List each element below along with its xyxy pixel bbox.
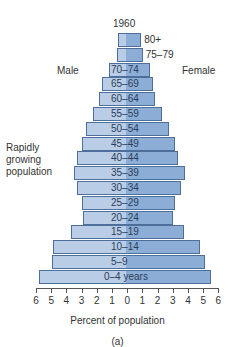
age-group-label: 5–9: [111, 256, 128, 267]
x-tick-label: 1: [137, 295, 147, 306]
age-group-label: 0–4 years: [104, 271, 148, 282]
x-tick-label: 4: [61, 295, 71, 306]
age-group-label: 40–44: [111, 152, 139, 163]
male-segment: [118, 49, 126, 61]
x-tick: [158, 288, 159, 293]
x-tick: [112, 288, 113, 293]
x-tick: [51, 288, 52, 293]
pyramid-bar: [117, 48, 143, 62]
age-group-label: 50–54: [111, 123, 139, 134]
female-label: Female: [182, 65, 215, 76]
age-group-label: 75–79: [146, 49, 174, 60]
age-group-label: 10–14: [111, 241, 139, 252]
age-group-label: 45–49: [111, 138, 139, 149]
x-tick-label: 4: [183, 295, 193, 306]
pyramid-bar: [52, 255, 206, 269]
x-tick-label: 6: [213, 295, 223, 306]
male-segment: [119, 34, 126, 46]
pyramid-bar: [118, 33, 141, 47]
x-tick: [173, 288, 174, 293]
x-tick: [82, 288, 83, 293]
age-group-label: 30–34: [111, 182, 139, 193]
age-group-label: 15–19: [111, 226, 139, 237]
female-segment: [126, 49, 141, 61]
age-group-label: 80+: [144, 34, 161, 45]
age-group-label: 35–39: [111, 167, 139, 178]
chart-title-year: 1960: [113, 18, 135, 29]
desc-line-2: growing: [6, 154, 52, 166]
desc-line-1: Rapidly: [6, 142, 52, 154]
x-tick-label: 3: [168, 295, 178, 306]
x-tick: [142, 288, 143, 293]
x-tick: [127, 288, 128, 293]
age-group-label: 70–74: [111, 64, 139, 75]
female-segment: [126, 34, 140, 46]
age-group-label: 65–69: [111, 78, 139, 89]
x-tick-label: 2: [153, 295, 163, 306]
age-group-label: 55–59: [111, 108, 139, 119]
population-description: Rapidly growing population: [6, 142, 52, 178]
x-tick: [203, 288, 204, 293]
x-tick-label: 5: [46, 295, 56, 306]
x-tick-label: 2: [92, 295, 102, 306]
x-tick: [66, 288, 67, 293]
x-tick: [97, 288, 98, 293]
desc-line-3: population: [6, 166, 52, 178]
x-tick-label: 6: [31, 295, 41, 306]
female-segment: [126, 256, 204, 268]
age-group-label: 25–29: [111, 197, 139, 208]
x-tick: [218, 288, 219, 293]
x-tick: [188, 288, 189, 293]
x-tick-label: 5: [198, 295, 208, 306]
x-axis-label: Percent of population: [0, 315, 235, 326]
age-group-label: 20–24: [111, 212, 139, 223]
x-tick: [36, 288, 37, 293]
x-tick-label: 0: [122, 295, 132, 306]
male-label: Male: [57, 65, 79, 76]
figure-caption: (a): [0, 336, 235, 347]
x-tick-label: 1: [107, 295, 117, 306]
age-group-label: 60–64: [111, 93, 139, 104]
x-tick-label: 3: [77, 295, 87, 306]
